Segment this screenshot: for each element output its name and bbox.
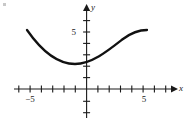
- y-axis-arrowhead: [83, 4, 90, 11]
- x-axis-arrowhead: [171, 85, 178, 92]
- x-axis-label: x: [179, 84, 183, 93]
- x-axis-group: [14, 85, 178, 92]
- graph-figure: y x 5 −5 5: [0, 0, 187, 124]
- y-tick-label-5: 5: [66, 28, 76, 37]
- coordinate-plane-svg: [0, 0, 187, 124]
- x-tick-label-5: 5: [138, 95, 150, 104]
- y-axis-label: y: [91, 3, 95, 12]
- x-tick-label-negative-5: −5: [22, 95, 38, 104]
